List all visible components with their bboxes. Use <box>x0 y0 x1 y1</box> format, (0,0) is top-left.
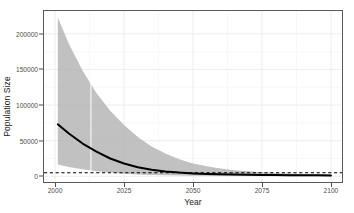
x-tick-mark <box>331 183 332 187</box>
x-tick-2100: 2100 <box>311 187 351 197</box>
plot-area-svg <box>44 11 342 182</box>
x-tick-mark <box>124 183 125 187</box>
x-tick-label: 2100 <box>311 187 351 194</box>
x-tick-label: 2025 <box>104 187 144 194</box>
x-tick-label: 2050 <box>173 187 213 194</box>
x-tick-label: 2075 <box>242 187 282 194</box>
y-tick-label: 150000 <box>12 66 38 73</box>
x-tick-2025: 2025 <box>104 187 144 197</box>
x-tick-mark <box>55 183 56 187</box>
y-tick-label: 200000 <box>12 30 38 37</box>
x-axis-title: Year <box>43 197 343 207</box>
plot-panel <box>43 10 343 183</box>
y-tick-label: 50000 <box>12 137 38 144</box>
x-tick-2075: 2075 <box>242 187 282 197</box>
x-tick-mark <box>193 183 194 187</box>
x-tick-2050: 2050 <box>173 187 213 197</box>
x-tick-mark <box>262 183 263 187</box>
x-tick-label: 2000 <box>35 187 75 194</box>
population-projection-chart: Population Size Year 0500001000001500002… <box>0 0 354 213</box>
y-tick-label: 100000 <box>12 102 38 109</box>
x-tick-2000: 2000 <box>35 187 75 197</box>
y-tick-label: 0 <box>12 173 38 180</box>
